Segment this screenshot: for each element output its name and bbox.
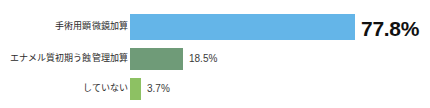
bar-value-label: 3.7% — [147, 84, 170, 94]
bar-category-label: エナメル質初期う蝕管理加算 — [10, 54, 128, 63]
bar-value-label: 18.5% — [189, 54, 217, 64]
bar-fill — [130, 48, 183, 70]
bar-value-label: 77.8% — [361, 18, 419, 39]
bar-row: していない 3.7% — [0, 78, 430, 100]
bar-row: エナメル質初期う蝕管理加算 18.5% — [0, 48, 430, 70]
bar-row: 手術用顕微鏡加算 77.8% — [0, 14, 430, 40]
bar-category-label: していない — [83, 84, 129, 93]
horizontal-bar-chart: 手術用顕微鏡加算 77.8% エナメル質初期う蝕管理加算 18.5% していない… — [0, 0, 430, 108]
bar-fill — [130, 14, 355, 40]
bar-category-label: 手術用顕微鏡加算 — [55, 22, 128, 31]
bar-fill — [130, 78, 141, 100]
